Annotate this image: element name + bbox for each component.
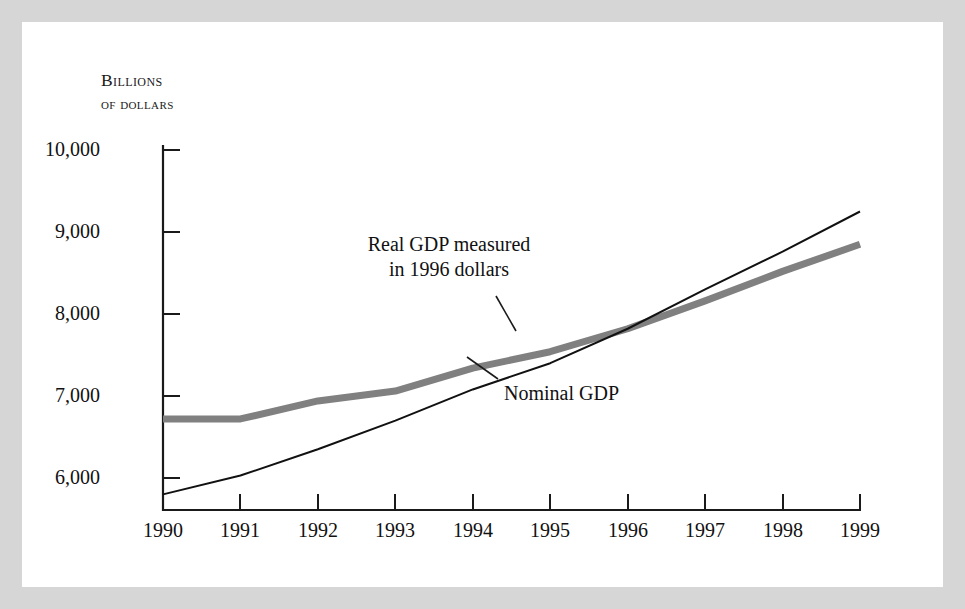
x-axis-ticks <box>163 494 860 510</box>
gdp-chart-figure: Billions of dollars 10,000 9,000 8,000 7… <box>0 0 965 609</box>
y-axis-ticks <box>163 150 180 478</box>
chart-plot-svg <box>0 0 965 609</box>
series-line-nominal-gdp <box>163 212 860 495</box>
axis-lines <box>162 145 861 511</box>
leader-line-real-gdp <box>496 296 516 331</box>
series-line-real-gdp <box>163 244 860 419</box>
